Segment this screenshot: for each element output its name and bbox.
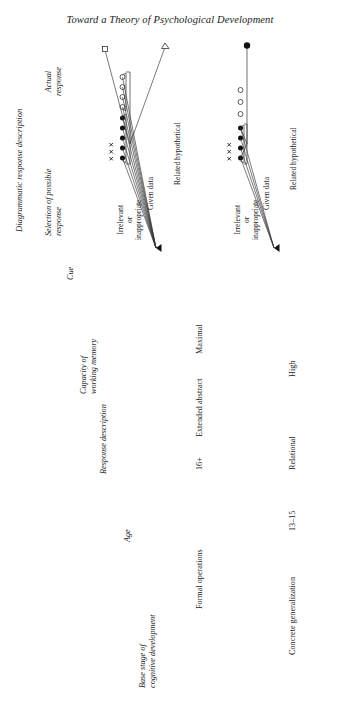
symbol-open-circle-group-row2	[238, 88, 243, 117]
column-header-base-stage: Base stage of cognitive development	[138, 615, 157, 688]
column-header-base-stage-line1: Base stage of	[138, 644, 147, 688]
column-header-selection-line2: response	[54, 207, 63, 236]
column-header-response-description: Response description	[99, 404, 109, 474]
selection-fan-row2	[241, 128, 275, 248]
cell-capacity-row2: High	[288, 361, 298, 377]
actual-response-connectors-row1	[105, 47, 165, 144]
symbol-cross-group-row2	[228, 143, 231, 160]
column-header-age: Age	[123, 529, 133, 542]
column-header-actual-response-line2: response	[54, 67, 63, 96]
column-header-actual-response: Actual response	[44, 67, 63, 96]
figure-caption: Diagrammatic response description	[14, 109, 24, 232]
page-title: Toward a Theory of Psychological Develop…	[0, 14, 340, 25]
column-header-selection-line1: Selection of possible	[44, 169, 53, 236]
column-header-cue: Cue	[66, 267, 76, 280]
symbol-cross-group-row1	[110, 143, 113, 160]
actual-response-marker-triangle-row1	[162, 43, 170, 49]
cell-capacity-row1: Maximal	[195, 324, 205, 354]
actual-response-marker-square-row1	[103, 47, 108, 52]
column-header-capacity-line1: Capacity of	[79, 356, 88, 394]
cell-response-description-row1: Extended abstract	[195, 379, 205, 437]
response-diagram-row1	[100, 40, 210, 300]
column-header-selection: Selection of possible response	[44, 169, 63, 236]
actual-response-marker-filled-circle-row2	[244, 42, 250, 48]
response-diagram-row2	[218, 40, 328, 300]
cell-base-stage-row2: Concrete generalization	[288, 577, 298, 655]
cell-base-stage-row1: Formal operations	[195, 549, 205, 609]
column-header-capacity: Capacity of working memory	[79, 339, 98, 394]
column-header-base-stage-line2: cognitive development	[148, 615, 157, 688]
column-header-actual-response-line1: Actual	[44, 71, 53, 92]
cell-response-description-row2: Relational	[288, 436, 298, 470]
selection-fan-row1	[123, 77, 157, 248]
column-header-capacity-line2: working memory	[89, 339, 98, 394]
cue-marker-row2	[274, 244, 280, 252]
cue-marker-row1	[156, 244, 162, 252]
cell-age-row2: 13–15	[288, 511, 298, 531]
cell-age-row1: 16+	[195, 457, 205, 470]
